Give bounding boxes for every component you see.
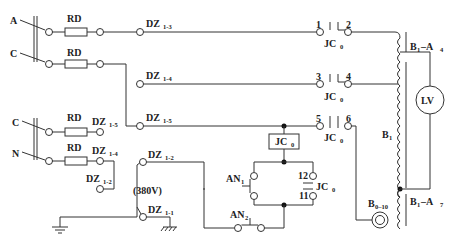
- terminal: [46, 61, 53, 68]
- svg-text:1: 1: [417, 46, 420, 53]
- svg-text:LV: LV: [421, 95, 435, 106]
- current-transformer: B 0–10: [368, 198, 388, 228]
- svg-text:JC: JC: [316, 181, 328, 192]
- svg-text:1: 1: [389, 134, 392, 141]
- svg-text:4: 4: [440, 46, 444, 53]
- phase-c-label: C: [10, 48, 17, 59]
- jc0-label: JC: [324, 38, 336, 49]
- svg-text:DZ: DZ: [86, 173, 100, 184]
- dz14-label: DZ: [146, 70, 160, 81]
- dz13-label: DZ: [146, 18, 160, 29]
- svg-text:0–10: 0–10: [375, 203, 388, 210]
- upper-supply-switch: A C: [10, 15, 53, 68]
- fuse-icon: [65, 157, 87, 165]
- svg-text:1-4: 1-4: [163, 75, 172, 82]
- svg-text:2: 2: [245, 214, 248, 221]
- svg-text:0: 0: [291, 141, 294, 148]
- tap-a4-label: B: [410, 41, 417, 52]
- svg-text:1-4: 1-4: [109, 150, 118, 157]
- voltage-label: (380V): [133, 185, 162, 197]
- svg-text:–A: –A: [420, 41, 434, 52]
- svg-text:1-5: 1-5: [109, 121, 118, 128]
- svg-text:1-5: 1-5: [163, 117, 172, 124]
- svg-text:0: 0: [340, 137, 343, 144]
- phase-a-label: A: [10, 15, 18, 26]
- transformer-b1: B 1 –A 4 B 1 B 1 –A 7: [382, 32, 444, 229]
- svg-text:7: 7: [440, 201, 444, 208]
- svg-text:1-3: 1-3: [163, 23, 172, 30]
- fuse-a: RD: [52, 13, 136, 36]
- svg-text:RD: RD: [67, 142, 81, 153]
- svg-text:DZ: DZ: [92, 145, 106, 156]
- svg-text:1: 1: [241, 178, 244, 185]
- line-dz15: DZ 1-5: [137, 112, 317, 130]
- an1-label: AN: [226, 173, 241, 184]
- winding-icon: [395, 32, 400, 198]
- svg-text:0: 0: [332, 186, 335, 193]
- contact-3-4: 3 4 JC 0: [316, 71, 398, 103]
- an2-label: AN: [230, 209, 245, 220]
- svg-text:JC: JC: [275, 136, 287, 147]
- svg-text:0: 0: [340, 96, 343, 103]
- svg-text:1-2: 1-2: [165, 154, 174, 161]
- fuse-icon: [65, 128, 87, 136]
- svg-text:C: C: [12, 117, 19, 128]
- b0-10-label: B: [368, 198, 375, 209]
- b1-label: B: [382, 129, 389, 140]
- dz15-label: DZ: [146, 112, 160, 123]
- svg-text:1-2: 1-2: [103, 178, 112, 185]
- winding-icon: [398, 189, 401, 229]
- svg-text:11: 11: [299, 190, 308, 201]
- fuse-c: RD: [52, 47, 140, 126]
- fuse-icon: [65, 28, 87, 36]
- line-dz13: DZ 1-3: [137, 18, 317, 36]
- lower-supply-switch: C N RD DZ 1-5 RD DZ 1-4 DZ 1-2: [12, 112, 118, 193]
- terminal: [46, 29, 53, 36]
- contact-5-6: 5 6 JC 0: [316, 113, 372, 220]
- fuse-label: RD: [67, 47, 81, 58]
- svg-text:1: 1: [417, 201, 420, 208]
- jc0-label: JC: [324, 132, 336, 143]
- fuse-label: RD: [67, 13, 81, 24]
- svg-text:0: 0: [340, 43, 343, 50]
- svg-text:–A: –A: [420, 196, 434, 207]
- svg-text:DZ: DZ: [92, 116, 106, 127]
- jc0-label: JC: [324, 91, 336, 102]
- line-dz14: DZ 1-4: [137, 70, 317, 88]
- svg-text:DZ: DZ: [148, 204, 162, 215]
- svg-text:N: N: [12, 148, 20, 159]
- voltmeter: LV: [416, 52, 444, 189]
- svg-text:1-1: 1-1: [165, 209, 174, 216]
- svg-text:DZ: DZ: [148, 149, 162, 160]
- fuse-icon: [65, 60, 87, 68]
- contact-1-2: 1 2 JC 0: [316, 19, 395, 50]
- svg-text:RD: RD: [67, 112, 81, 123]
- tap-a7-label: B: [410, 196, 417, 207]
- svg-text:12: 12: [298, 170, 308, 181]
- schematic-canvas: A C RD RD DZ 1-3 DZ 1-4: [0, 0, 454, 249]
